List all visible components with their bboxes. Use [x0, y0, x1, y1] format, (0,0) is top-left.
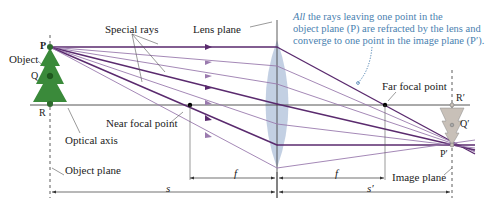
special-rays-label: Special rays	[105, 23, 158, 35]
annotation-emphasis: All	[293, 11, 305, 22]
point-r-prime-label: R′	[456, 92, 465, 104]
point-p-prime-label: P′	[440, 148, 448, 160]
point-p-label: P	[40, 40, 46, 52]
image-plane-label: Image plane	[392, 171, 446, 183]
object-label: Object	[9, 53, 38, 65]
point-q-prime-label: Q′	[460, 118, 469, 130]
far-focal-pointer	[388, 92, 396, 101]
lens-plane-pointer	[250, 22, 272, 27]
point-r-label: R	[39, 107, 46, 119]
far-focal-point-label: Far focal point	[382, 80, 447, 92]
focal-length-left-label: f	[234, 167, 237, 179]
annotation-text: All the rays leaving one point in the ob…	[293, 11, 490, 47]
optical-axis-pointer	[68, 108, 80, 133]
near-focal-point-label: Near focal point	[106, 117, 177, 129]
object-plane-pointer	[52, 168, 64, 175]
focal-length-right-label: f	[335, 167, 338, 179]
object-plane-label: Object plane	[65, 164, 121, 176]
point-q-label: Q	[31, 70, 38, 82]
object-distance-label: s	[166, 182, 170, 194]
annotation-pointer	[358, 47, 372, 83]
dimension-arrowheads	[52, 177, 450, 194]
lens-plane-label: Lens plane	[193, 23, 241, 35]
optical-axis-label: Optical axis	[65, 134, 118, 146]
ray-arrowheads	[205, 44, 212, 138]
incident-rays	[50, 47, 277, 168]
image-distance-label: s′	[367, 182, 374, 194]
